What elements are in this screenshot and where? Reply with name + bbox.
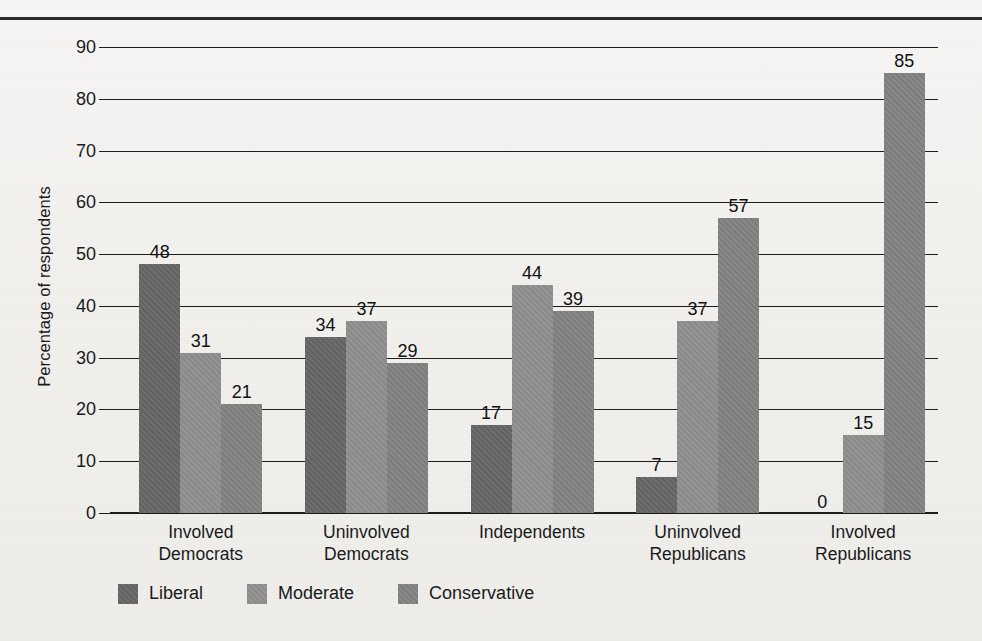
- bar-value-label: 34: [315, 316, 335, 334]
- y-tick-label-70: 70: [76, 140, 96, 161]
- bar-value-label: 7: [652, 456, 662, 474]
- y-tick-label-60: 60: [76, 192, 96, 213]
- legend-item-conservative: Conservative: [398, 583, 534, 604]
- bar-group: 174439: [471, 47, 594, 513]
- legend-item-moderate: Moderate: [247, 583, 354, 604]
- legend-swatch-liberal: [118, 584, 138, 604]
- legend-swatch-conservative: [398, 584, 418, 604]
- bar-value-label: 37: [356, 300, 376, 318]
- legend-item-liberal: Liberal: [118, 583, 203, 604]
- bar-value-label: 29: [397, 342, 417, 360]
- bar-group: 343729: [305, 47, 428, 513]
- bar-value-label: 31: [191, 332, 211, 350]
- bar-value-label: 21: [232, 383, 252, 401]
- x-axis-category-label: Uninvolved Republicans: [606, 521, 789, 565]
- y-tickmark-0: [99, 513, 110, 514]
- y-tick-label-30: 30: [76, 347, 96, 368]
- legend-swatch-moderate: [247, 584, 267, 604]
- legend-label-liberal: Liberal: [149, 583, 203, 604]
- bar-moderate[interactable]: 31: [180, 353, 221, 514]
- y-tickmark-70: [99, 151, 110, 152]
- bar-conservative[interactable]: 39: [553, 311, 594, 513]
- y-tickmark-90: [99, 47, 110, 48]
- bar-texture: [677, 321, 718, 513]
- bar-conservative[interactable]: 29: [387, 363, 428, 513]
- y-tick-label-20: 20: [76, 399, 96, 420]
- bar-texture: [512, 285, 553, 513]
- y-tickmark-50: [99, 254, 110, 255]
- bar-moderate[interactable]: 44: [512, 285, 553, 513]
- x-axis-category-label: Independents: [441, 521, 624, 543]
- bar-texture: [843, 435, 884, 513]
- bar-value-label: 44: [522, 264, 542, 282]
- plot-area: 0102030405060708090483121343729174439737…: [110, 47, 938, 513]
- chart-legend: Liberal Moderate Conservative: [118, 583, 534, 604]
- swatch-texture: [118, 584, 138, 604]
- bar-value-label: 85: [894, 52, 914, 70]
- bar-liberal[interactable]: 34: [305, 337, 346, 513]
- y-tick-label-0: 0: [86, 503, 96, 524]
- bar-value-label: 17: [481, 404, 501, 422]
- y-tickmark-80: [99, 99, 110, 100]
- legend-label-moderate: Moderate: [278, 583, 354, 604]
- swatch-texture: [247, 584, 267, 604]
- legend-label-conservative: Conservative: [429, 583, 534, 604]
- bar-value-label: 37: [688, 300, 708, 318]
- y-tickmark-30: [99, 358, 110, 359]
- bar-value-label: 0: [817, 493, 827, 511]
- y-tickmark-40: [99, 306, 110, 307]
- y-tick-label-50: 50: [76, 244, 96, 265]
- bar-conservative[interactable]: 85: [884, 73, 925, 513]
- y-tickmark-10: [99, 461, 110, 462]
- bar-texture: [884, 73, 925, 513]
- bar-group: 01585: [802, 47, 925, 513]
- bar-liberal[interactable]: 48: [139, 264, 180, 513]
- bar-conservative[interactable]: 21: [221, 404, 262, 513]
- bar-texture: [718, 218, 759, 513]
- bar-texture: [221, 404, 262, 513]
- bar-texture: [346, 321, 387, 513]
- bar-liberal[interactable]: 7: [636, 477, 677, 513]
- bar-texture: [180, 353, 221, 514]
- grouped-bar-chart: Percentage of respondents 01020304050607…: [0, 0, 982, 641]
- y-tick-label-40: 40: [76, 295, 96, 316]
- y-tick-label-80: 80: [76, 88, 96, 109]
- x-axis-category-label: Uninvolved Democrats: [275, 521, 458, 565]
- bar-texture: [139, 264, 180, 513]
- bar-texture: [636, 477, 677, 513]
- bar-group: 73757: [636, 47, 759, 513]
- bar-moderate[interactable]: 15: [843, 435, 884, 513]
- y-tickmark-20: [99, 409, 110, 410]
- bar-texture: [305, 337, 346, 513]
- x-axis-category-label: Involved Republicans: [772, 521, 955, 565]
- bar-value-label: 15: [853, 414, 873, 432]
- bar-texture: [553, 311, 594, 513]
- y-tick-label-90: 90: [76, 37, 96, 58]
- y-tick-label-10: 10: [76, 451, 96, 472]
- bar-value-label: 48: [150, 243, 170, 261]
- swatch-texture: [398, 584, 418, 604]
- bar-moderate[interactable]: 37: [346, 321, 387, 513]
- x-axis-category-label: Involved Democrats: [109, 521, 292, 565]
- bar-liberal[interactable]: 17: [471, 425, 512, 513]
- y-axis-title: Percentage of respondents: [35, 157, 54, 417]
- bar-value-label: 39: [563, 290, 583, 308]
- bar-texture: [471, 425, 512, 513]
- y-tickmark-60: [99, 202, 110, 203]
- bar-conservative[interactable]: 57: [718, 218, 759, 513]
- bar-value-label: 57: [729, 197, 749, 215]
- bar-group: 483121: [139, 47, 262, 513]
- bar-moderate[interactable]: 37: [677, 321, 718, 513]
- bar-texture: [387, 363, 428, 513]
